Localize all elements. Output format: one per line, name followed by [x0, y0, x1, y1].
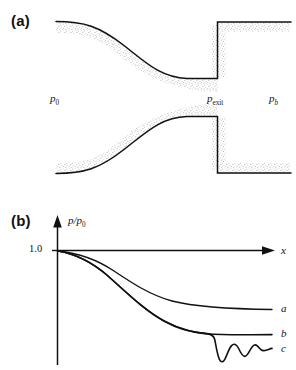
- y-tick-label-1-0: 1.0: [29, 243, 42, 254]
- y-axis-title: p/p0: [68, 214, 86, 229]
- symbol-pb: pb: [269, 92, 278, 104]
- pressure-curve-a: [58, 251, 272, 310]
- curve-label-c: c: [281, 342, 286, 354]
- panel-b-label: (b): [11, 212, 31, 229]
- figure-graphics: [0, 0, 296, 370]
- curve-label-a: a: [281, 302, 287, 314]
- label-exit-pressure: pexit: [207, 92, 223, 107]
- symbol-pexit: pexit: [207, 92, 223, 104]
- x-axis-arrowhead: [262, 246, 275, 255]
- label-back-pressure: pb: [269, 92, 278, 107]
- x-axis-title: x: [281, 244, 286, 256]
- symbol-p0: p0: [50, 92, 59, 104]
- curve-label-b: b: [281, 327, 287, 339]
- pressure-curve-c: [58, 251, 272, 362]
- figure-root: (a): [0, 0, 296, 370]
- y-axis-arrowhead: [53, 215, 62, 228]
- label-stagnation-pressure: p0: [50, 92, 59, 107]
- duct-wall-shading-upper: [50, 15, 230, 105]
